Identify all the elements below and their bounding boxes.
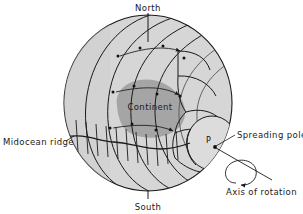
axis-of-rotation-line bbox=[216, 148, 272, 180]
pole-label-p: P bbox=[206, 136, 211, 145]
plate-tectonics-diagram: P North South Continent Midocean ridge S… bbox=[0, 0, 303, 214]
label-south: South bbox=[135, 202, 162, 212]
label-spreading-pole: Spreading pole bbox=[237, 130, 303, 140]
rotation-arrow bbox=[225, 160, 256, 185]
label-north: North bbox=[135, 3, 161, 13]
pole-small-circle bbox=[187, 116, 237, 170]
label-midocean-ridge: Midocean ridge bbox=[3, 137, 74, 147]
label-continent: Continent bbox=[127, 102, 172, 112]
sphere-shading-left bbox=[64, 15, 110, 191]
label-axis-of-rotation: Axis of rotation bbox=[226, 187, 297, 197]
